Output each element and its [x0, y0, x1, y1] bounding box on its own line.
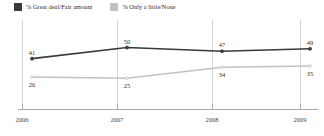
- data-label-great-deal-fair-amount-2006: 41: [29, 49, 35, 56]
- data-label-great-deal-fair-amount-2008: 47: [219, 41, 225, 48]
- data-point: [221, 50, 224, 53]
- data-point: [126, 46, 129, 49]
- data-label-great-deal-fair-amount-2009: 49: [307, 39, 313, 46]
- legend-swatch-dark: [14, 3, 22, 11]
- legend-swatch-light: [110, 3, 118, 11]
- x-axis-label-2006: 2006: [15, 116, 28, 123]
- legend-item-only-a-little-none[interactable]: % Only a little/None: [110, 3, 175, 11]
- legend-label-great-deal-fair-amount: % Great deal/Fair amount: [26, 3, 92, 11]
- data-point: [221, 66, 224, 69]
- line-series-great-deal-fair-amount: [32, 48, 310, 59]
- series-lines: [0, 16, 324, 114]
- data-label-only-a-little-none-2008: 34: [219, 71, 225, 78]
- data-label-only-a-little-none-2006: 26: [29, 81, 35, 88]
- data-point: [126, 77, 129, 80]
- data-point: [31, 57, 34, 60]
- line-series-only-a-little-none: [32, 66, 310, 78]
- legend-label-only-a-little-none: % Only a little/None: [122, 3, 175, 11]
- x-axis-label-2009: 2009: [293, 116, 306, 123]
- data-label-great-deal-fair-amount-2007: 50: [124, 38, 130, 45]
- chart-legend: % Great deal/Fair amount % Only a little…: [14, 1, 176, 13]
- data-point: [31, 76, 34, 79]
- x-axis-labels: 2006 2007 2008 2009: [0, 116, 324, 130]
- plot-area: 4150474926253435: [0, 16, 324, 114]
- data-point: [309, 47, 312, 50]
- x-axis-label-2008: 2008: [205, 116, 218, 123]
- legend-item-great-deal-fair-amount[interactable]: % Great deal/Fair amount: [14, 3, 92, 11]
- chart-container: % Great deal/Fair amount % Only a little…: [0, 0, 324, 136]
- data-label-only-a-little-none-2007: 25: [124, 82, 130, 89]
- x-axis-label-2007: 2007: [110, 116, 123, 123]
- data-label-only-a-little-none-2009: 35: [307, 70, 313, 77]
- data-point: [309, 65, 312, 68]
